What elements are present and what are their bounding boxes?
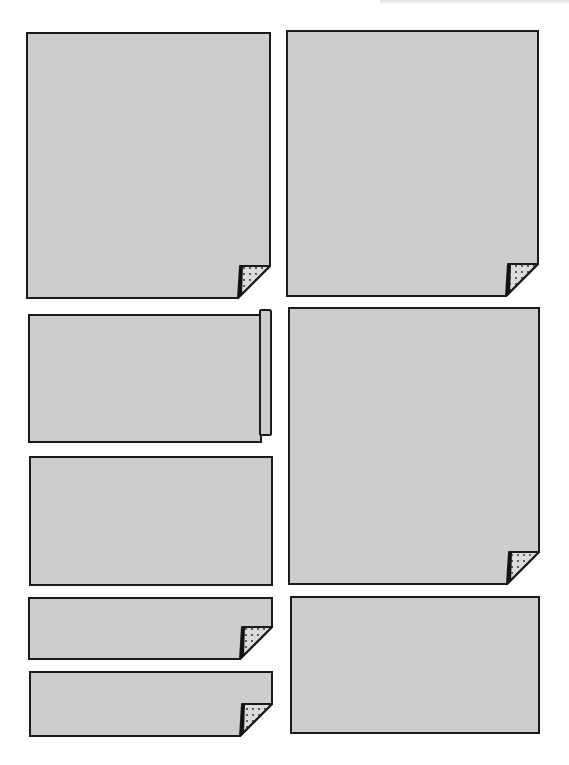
panel-1 bbox=[26, 32, 273, 301]
panel-3 bbox=[28, 314, 262, 443]
panel-5 bbox=[29, 456, 273, 586]
panel-2 bbox=[286, 30, 541, 299]
panel-4 bbox=[288, 307, 542, 587]
panel-7 bbox=[29, 671, 275, 739]
panel-body bbox=[289, 308, 539, 584]
panel-6 bbox=[28, 597, 275, 662]
panel-body bbox=[29, 598, 272, 659]
header-text-cropped bbox=[380, 0, 569, 4]
panel-body bbox=[30, 672, 272, 736]
panel-body bbox=[287, 31, 538, 296]
panel-8 bbox=[290, 596, 540, 734]
panel-body bbox=[27, 33, 270, 298]
rolled-edge-icon bbox=[259, 309, 272, 436]
